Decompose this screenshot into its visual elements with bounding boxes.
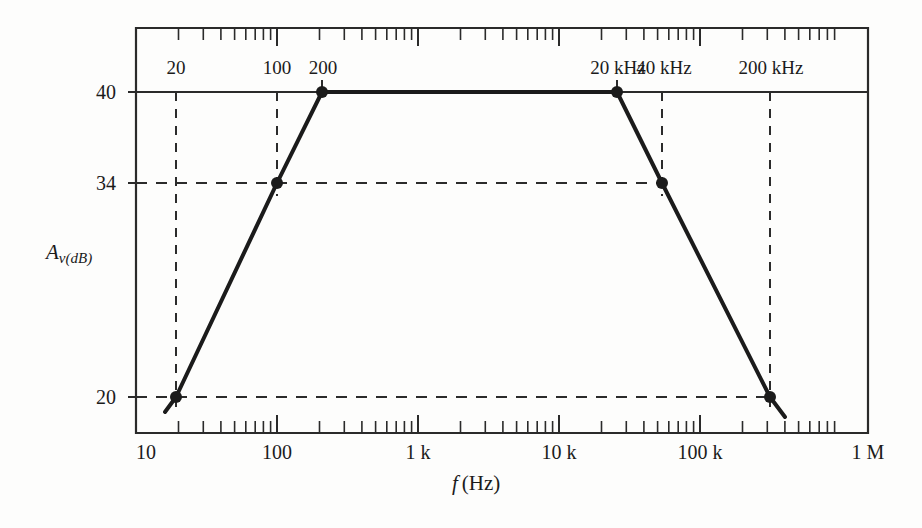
data-point-200hz <box>316 86 328 98</box>
bode-plot-figure: 40 34 20 Av(dB) 10 100 1 k 10 k 100 k 1 … <box>0 0 922 528</box>
y-axis-title: Av(dB) <box>46 240 92 267</box>
x-axis-title-unit: (Hz) <box>462 471 500 495</box>
y-axis-ticks <box>128 92 136 397</box>
data-point-100hz <box>271 177 283 189</box>
data-point-markers <box>170 86 776 403</box>
x-axis-title-symbol: f <box>452 471 458 495</box>
x-tick-label-10: 10 <box>126 442 166 462</box>
data-point-200khz <box>764 391 776 403</box>
data-point-20hz <box>170 391 182 403</box>
data-point-20khz <box>611 86 623 98</box>
marker-label-40khz: 40 kHz <box>616 58 712 77</box>
x-tick-label-100k: 100 k <box>668 442 732 462</box>
data-point-40khz <box>656 177 668 189</box>
top-axis-ticks <box>179 28 835 46</box>
x-tick-label-100: 100 <box>252 442 302 462</box>
x-tick-label-10k: 10 k <box>531 442 587 462</box>
y-tick-label-40: 40 <box>96 82 116 102</box>
y-axis-title-main: A <box>46 240 59 264</box>
x-tick-label-1m: 1 M <box>840 442 896 462</box>
response-curve <box>165 92 785 417</box>
marker-label-200khz: 200 kHz <box>716 58 826 77</box>
y-tick-label-34: 34 <box>96 173 116 193</box>
marker-label-20hz: 20 <box>152 58 200 77</box>
y-axis-title-subscript: v(dB) <box>59 250 92 266</box>
y-tick-label-20: 20 <box>96 387 116 407</box>
x-tick-label-1k: 1 k <box>394 442 442 462</box>
annotation-dashed-verticals <box>176 80 770 408</box>
x-axis-title: f(Hz) <box>452 473 500 494</box>
bottom-axis-ticks <box>179 415 835 433</box>
marker-label-200hz: 200 <box>295 58 351 77</box>
